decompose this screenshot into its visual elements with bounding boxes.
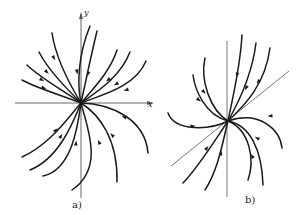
trajectory-curve	[205, 121, 228, 190]
panel-a-x-axis-label: x	[148, 100, 153, 109]
panel-b-node-portrait	[168, 35, 289, 197]
flow-direction-arrow-icon	[98, 140, 102, 145]
trajectory-curve	[81, 31, 97, 103]
flow-direction-arrow-icon	[74, 141, 78, 146]
flow-direction-arrow-icon	[87, 71, 90, 76]
flow-direction-arrow-icon	[255, 137, 260, 141]
trajectory-curve	[27, 65, 81, 103]
panel-b-caption: b)	[245, 194, 255, 205]
flow-direction-arrow-icon	[114, 81, 119, 85]
panel-a-trajectories	[22, 26, 148, 190]
flow-direction-arrow-icon	[51, 55, 55, 60]
y-axis-arrowhead-icon	[79, 12, 83, 19]
flow-direction-arrow-icon	[122, 116, 127, 119]
trajectory-curve	[22, 103, 81, 157]
flow-direction-arrow-icon	[75, 69, 79, 74]
panel-a-node-portrait	[15, 12, 154, 198]
trajectory-curve	[228, 121, 251, 180]
flow-direction-arrow-icon	[41, 85, 46, 89]
flow-direction-arrow-icon	[201, 89, 206, 94]
flow-direction-arrow-icon	[110, 133, 115, 138]
trajectory-curve	[228, 121, 263, 185]
panel-a-y-axis-label: y	[84, 8, 89, 17]
flow-direction-arrow-icon	[44, 69, 49, 74]
panel-a-caption: a)	[72, 199, 82, 210]
panel-b-trajectories	[168, 35, 282, 190]
trajectory-curve	[168, 113, 228, 128]
flow-direction-arrow-icon	[124, 88, 129, 91]
flow-direction-arrow-icon	[268, 114, 273, 118]
trajectory-curve	[204, 58, 228, 121]
flow-direction-arrow-icon	[58, 134, 62, 139]
